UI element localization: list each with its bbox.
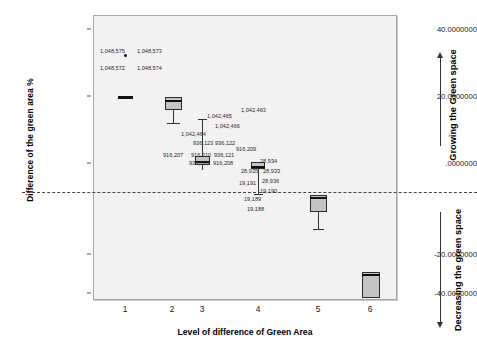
x-tick-label-5: 5 bbox=[306, 304, 330, 314]
y-tick-mark-minus20 bbox=[87, 254, 91, 255]
x-tick-label-1: 1 bbox=[113, 304, 137, 314]
data-point-label: 19,188 bbox=[247, 207, 264, 213]
data-point-label: 916,207 bbox=[163, 153, 183, 159]
up-arrow-icon bbox=[437, 52, 443, 58]
plot-area: 1,048,5751,048,5731,048,5721,048,5741,04… bbox=[93, 15, 397, 300]
data-point-label: 28,935 bbox=[241, 169, 258, 175]
box-body bbox=[118, 96, 133, 99]
y-tick-mark-minus40 bbox=[87, 293, 91, 294]
down-arrow-shaft bbox=[440, 212, 441, 322]
y-tick-mark-20 bbox=[87, 96, 91, 97]
x-axis-title: Level of difference of Green Area bbox=[93, 327, 397, 337]
data-point-label: 916,210 bbox=[191, 153, 211, 159]
data-point-label: 19,191 bbox=[239, 181, 256, 187]
y-tick-label-minus20: -20.0000000 bbox=[387, 250, 477, 259]
boxplot-figure: Difference of the green area % 40.000000… bbox=[0, 0, 477, 353]
median-line bbox=[362, 274, 380, 276]
x-tick-label-2: 2 bbox=[160, 304, 184, 314]
whisker-cap-lower bbox=[313, 229, 324, 230]
data-point-label: 1,048,572 bbox=[100, 66, 125, 72]
y-tick-mark-40 bbox=[87, 29, 91, 30]
up-arrow-shaft bbox=[440, 58, 441, 146]
y-tick-mark-0 bbox=[87, 163, 91, 164]
box-body bbox=[165, 97, 182, 110]
annotation-growing-green-space: Growing the Green space bbox=[448, 15, 458, 195]
annotation-decreasing-green-space: Decreasing the green space bbox=[453, 173, 463, 353]
data-point-label: 1,048,573 bbox=[137, 49, 162, 55]
y-tick-label-20: 20.0000000 bbox=[387, 92, 477, 101]
data-point-label: 1,042,466 bbox=[215, 124, 240, 130]
data-point-label: 936,122 bbox=[215, 141, 235, 147]
data-point-label: 1,048,575 bbox=[100, 49, 125, 55]
reference-line-dashed bbox=[22, 192, 477, 193]
data-point-label: 19,189 bbox=[244, 197, 261, 203]
box-body bbox=[362, 272, 380, 298]
y-tick-label-0: .0000000 bbox=[387, 159, 477, 168]
data-point-label: 1,042,463 bbox=[241, 108, 266, 114]
x-tick-label-6: 6 bbox=[358, 304, 382, 314]
data-point-label: 1,042,464 bbox=[181, 132, 206, 138]
y-tick-label-minus40: -40.0000000 bbox=[387, 289, 477, 298]
x-tick-label-4: 4 bbox=[246, 304, 270, 314]
whisker-cap-lower bbox=[167, 123, 180, 124]
whisker-lower bbox=[258, 169, 259, 194]
data-point-label: 1,042,465 bbox=[207, 114, 232, 120]
whisker-cap-upper bbox=[198, 119, 207, 120]
down-arrow-icon bbox=[437, 322, 443, 328]
data-point-label: 1,048,574 bbox=[137, 66, 162, 72]
data-point-label: 28,933 bbox=[263, 169, 280, 175]
data-point-label: 28,934 bbox=[260, 159, 277, 165]
data-point-label: 916,208 bbox=[213, 161, 233, 167]
data-point-label: 28,936 bbox=[262, 179, 279, 185]
whisker-lower bbox=[173, 110, 174, 123]
whisker-lower bbox=[318, 212, 319, 229]
median-line bbox=[310, 197, 327, 199]
median-line bbox=[165, 100, 182, 102]
data-point-label: 936,121 bbox=[214, 153, 234, 159]
data-point-label: 916,209 bbox=[236, 147, 256, 153]
data-point-label: 936,123 bbox=[193, 141, 213, 147]
y-tick-label-40: 40.0000000 bbox=[387, 25, 477, 34]
x-tick-label-3: 3 bbox=[190, 304, 214, 314]
y-axis-title: Difference of the green area % bbox=[25, 30, 35, 250]
data-point-label: 936,120 bbox=[189, 161, 209, 167]
